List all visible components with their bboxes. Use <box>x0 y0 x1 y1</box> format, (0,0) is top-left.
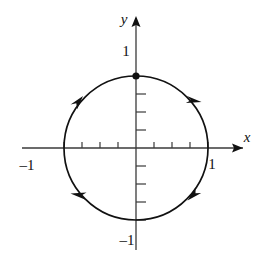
y-axis-ticks <box>136 94 146 220</box>
x-tick-label-positive-one: 1 <box>208 156 216 172</box>
y-tick-label-negative-one: –1 <box>119 232 135 248</box>
unit-circle-plot: y x 1 –1 –1 1 <box>0 0 274 264</box>
unit-circle-figure: y x 1 –1 –1 1 <box>0 0 274 264</box>
y-tick-label-positive-one: 1 <box>122 43 130 59</box>
start-point-dot <box>132 72 139 79</box>
direction-arrow-lower-left-icon <box>71 193 87 200</box>
x-tick-label-negative-one: –1 <box>19 157 35 173</box>
x-axis-label: x <box>243 129 251 145</box>
y-axis-label: y <box>119 11 128 27</box>
